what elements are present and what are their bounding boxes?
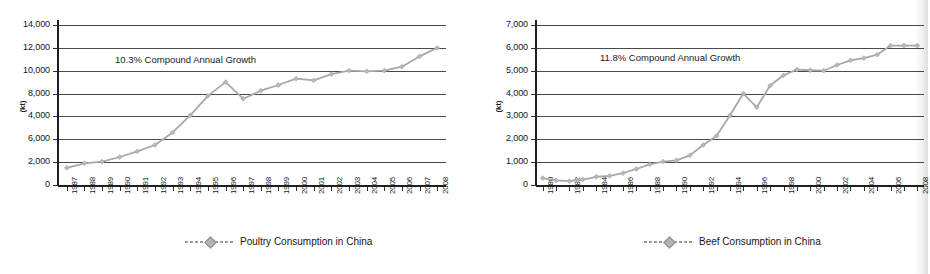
data-point-marker	[580, 177, 585, 182]
x-axis-tick-mark	[837, 187, 838, 191]
x-axis-tick-mark	[610, 187, 611, 191]
beef-plot-area: 7,0006,0005,0004,0003,0002,0001,00001980…	[536, 25, 924, 185]
series-line-poly	[536, 25, 924, 185]
x-axis-tick-mark	[583, 187, 584, 191]
x-axis-tick-mark	[173, 187, 174, 191]
data-point-marker	[808, 68, 813, 73]
y-axis-tick-label: 7,000	[482, 19, 528, 29]
y-axis-tick-label: 0	[482, 179, 528, 189]
beef-chart-panel: (kt) 11.8% Compound Annual Growth 7,0006…	[464, 0, 928, 274]
x-axis-tick-mark	[623, 187, 624, 191]
x-axis-tick-mark	[917, 187, 918, 191]
data-point-marker	[540, 176, 545, 181]
data-point-marker	[915, 43, 920, 48]
x-axis-tick-mark	[850, 187, 851, 191]
x-axis-tick-mark	[437, 187, 438, 191]
x-axis-tick-mark	[543, 187, 544, 191]
data-point-marker	[848, 58, 853, 63]
legend-line-marker-icon	[644, 237, 692, 247]
x-axis-tick-mark	[226, 187, 227, 191]
data-point-marker	[382, 68, 387, 73]
data-point-marker	[64, 165, 69, 170]
y-axis-tick-label: 1,000	[482, 156, 528, 166]
series-line-poly	[58, 25, 446, 185]
x-axis-tick-mark	[636, 187, 637, 191]
y-axis-tick-label: 5,000	[482, 65, 528, 75]
x-axis-tick-mark	[891, 187, 892, 191]
data-point-marker	[594, 174, 599, 179]
y-axis-tick-label: 14,000	[4, 19, 50, 29]
x-axis-tick-mark	[877, 187, 878, 191]
data-point-marker	[276, 83, 281, 88]
x-axis-tick-mark	[243, 187, 244, 191]
x-axis-tick-mark	[730, 187, 731, 191]
x-axis-tick-mark	[420, 187, 421, 191]
x-axis-tick-mark	[261, 187, 262, 191]
x-axis-tick-mark	[349, 187, 350, 191]
x-axis-tick-mark	[676, 187, 677, 191]
x-axis-tick-mark	[190, 187, 191, 191]
beef-legend-label: Beef Consumption in China	[699, 236, 821, 247]
y-axis-tick-label: 6,000	[482, 42, 528, 52]
x-axis-tick-mark	[743, 187, 744, 191]
data-point-marker	[647, 162, 652, 167]
poultry-legend: Poultry Consumption in China	[185, 236, 372, 247]
x-axis-tick-mark	[864, 187, 865, 191]
data-point-marker	[135, 149, 140, 154]
x-axis-tick-mark	[137, 187, 138, 191]
y-axis-tick-label: 2,000	[4, 156, 50, 166]
beef-legend: Beef Consumption in China	[644, 236, 821, 247]
x-axis-tick-mark	[208, 187, 209, 191]
x-axis-tick-mark	[824, 187, 825, 191]
x-axis-tick-mark	[596, 187, 597, 191]
data-point-marker	[100, 159, 105, 164]
x-axis-tick-mark	[296, 187, 297, 191]
data-point-marker	[554, 178, 559, 183]
legend-line-marker-icon	[185, 237, 233, 247]
x-axis-tick-mark	[904, 187, 905, 191]
y-axis-tick-label: 12,000	[4, 42, 50, 52]
data-point-marker	[621, 171, 626, 176]
x-axis-tick-mark	[402, 187, 403, 191]
data-point-marker	[117, 155, 122, 160]
y-axis-tick-label: 3,000	[482, 110, 528, 120]
x-axis-tick-mark	[784, 187, 785, 191]
data-point-marker	[861, 56, 866, 61]
y-axis-tick-label: 0	[4, 179, 50, 189]
data-point-marker	[567, 179, 572, 184]
poultry-plot-area: 14,00012,00010,0008,0004,0006,0002,00001…	[58, 25, 446, 185]
data-point-marker	[364, 69, 369, 74]
x-axis-tick-mark	[120, 187, 121, 191]
x-axis-tick-mark	[331, 187, 332, 191]
x-axis-tick-mark	[663, 187, 664, 191]
x-axis-tick-mark	[84, 187, 85, 191]
x-axis-tick-mark	[569, 187, 570, 191]
x-axis-tick-mark	[314, 187, 315, 191]
x-axis-tick-mark	[757, 187, 758, 191]
y-axis-tick-label: 6,000	[4, 133, 50, 143]
y-axis-tick-label: 8,000	[4, 88, 50, 98]
x-axis-tick-mark	[278, 187, 279, 191]
x-axis-tick-mark	[102, 187, 103, 191]
x-axis-tick-mark	[717, 187, 718, 191]
data-point-marker	[347, 68, 352, 73]
data-point-marker	[661, 159, 666, 164]
poultry-chart-panel: (kt) 10.3% Compound Annual Growth 14,000…	[0, 0, 464, 274]
x-axis-tick-mark	[67, 187, 68, 191]
data-point-marker	[82, 161, 87, 166]
data-point-marker	[294, 76, 299, 81]
x-axis-tick-mark	[367, 187, 368, 191]
poultry-legend-label: Poultry Consumption in China	[240, 236, 372, 247]
data-point-marker	[329, 72, 334, 77]
data-point-marker	[311, 78, 316, 83]
x-axis-tick-mark	[384, 187, 385, 191]
data-point-marker	[634, 167, 639, 172]
x-axis-tick-mark	[690, 187, 691, 191]
y-axis-tick-label: 4,000	[4, 110, 50, 120]
x-axis-tick-mark	[556, 187, 557, 191]
x-axis-tick-mark	[770, 187, 771, 191]
y-axis-tick-label: 10,000	[4, 65, 50, 75]
x-axis-tick-mark	[810, 187, 811, 191]
x-axis-tick-mark	[703, 187, 704, 191]
